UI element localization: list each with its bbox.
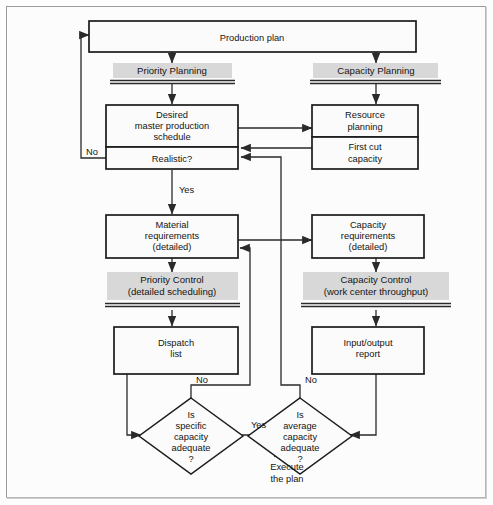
capacity-requirements-line3: (detailed) xyxy=(349,242,388,252)
capacity-planning-label: Capacity Planning xyxy=(337,65,414,76)
material-requirements-line3: (detailed) xyxy=(153,242,192,252)
edge-label-yes-specific: Yes xyxy=(251,420,267,430)
specific-decision-line1: Is xyxy=(187,410,195,420)
resource-planning-line2: planning xyxy=(347,122,382,132)
edge-label-no-realistic: No xyxy=(86,147,98,157)
first-cut-capacity-line1: First cut xyxy=(348,142,381,152)
desired-mps-line3: schedule xyxy=(153,132,190,142)
execute-plan-line2: the plan xyxy=(270,474,303,484)
edge-io-report-to-average-decision xyxy=(350,374,376,435)
input-output-report-line1: Input/output xyxy=(343,338,393,348)
dispatch-list-line2: list xyxy=(170,349,182,359)
material-requirements-line1: Material xyxy=(155,220,188,230)
diagram-canvas: Production plan Priority Planning Capaci… xyxy=(0,0,493,505)
resource-planning-line1: Resource xyxy=(345,110,385,120)
edge-label-no-average: No xyxy=(305,375,317,385)
production-plan-label: Production plan xyxy=(220,33,285,43)
edge-label-yes-realistic: Yes xyxy=(179,185,195,195)
material-requirements-line2: requirements xyxy=(145,231,200,241)
edge-no-realistic-to-plan xyxy=(81,35,106,158)
specific-decision-line2: specific xyxy=(175,421,206,431)
capacity-control-line1: Capacity Control xyxy=(341,274,412,285)
specific-decision-line3: capacity xyxy=(174,432,208,442)
capacity-requirements-line1: Capacity xyxy=(350,220,387,230)
specific-decision-line4: adequate xyxy=(172,443,211,453)
first-cut-capacity-line2: capacity xyxy=(348,154,382,164)
average-decision-line2: average xyxy=(283,421,317,431)
realistic-label: Realistic? xyxy=(152,154,192,164)
priority-planning-label: Priority Planning xyxy=(137,65,207,76)
capacity-control-line2: (work center throughput) xyxy=(324,286,429,297)
priority-control-line2: (detailed scheduling) xyxy=(128,286,217,297)
execute-plan-line1: Execute xyxy=(270,462,304,472)
average-decision-line3: capacity xyxy=(283,432,317,442)
desired-mps-line2: master production xyxy=(135,121,209,131)
capacity-requirements-line2: requirements xyxy=(341,231,396,241)
flowchart-svg: Production plan Priority Planning Capaci… xyxy=(0,0,493,505)
average-decision-line4: adequate xyxy=(281,443,320,453)
specific-decision-line5: ? xyxy=(188,454,193,464)
average-decision-line1: Is xyxy=(296,410,304,420)
edge-dispatch-to-specific-decision xyxy=(127,374,141,435)
edge-label-no-specific: No xyxy=(196,375,208,385)
desired-mps-line1: Desired xyxy=(156,110,188,120)
input-output-report-line2: report xyxy=(356,349,381,359)
dispatch-list-line1: Dispatch xyxy=(158,338,194,348)
priority-control-line1: Priority Control xyxy=(140,274,203,285)
